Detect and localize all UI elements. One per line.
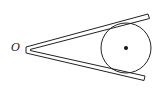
vertex-label-o: O — [11, 42, 20, 53]
lower-arm — [26, 51, 145, 81]
upper-arm — [26, 14, 150, 50]
diagram-figure: O — [0, 0, 163, 104]
circle-center-dot — [124, 46, 128, 50]
angle-circle-diagram — [0, 0, 163, 104]
